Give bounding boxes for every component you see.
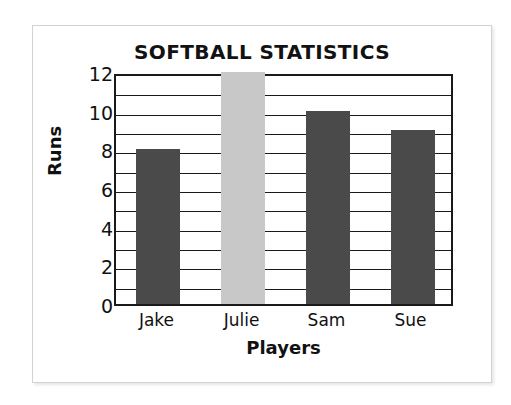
y-tick-label: 6	[79, 181, 113, 200]
figure-frame: SOFTBALL STATISTICS Runs 024681012 JakeJ…	[32, 25, 492, 383]
y-tick-label: 10	[79, 103, 113, 122]
y-tick-label: 12	[79, 65, 113, 84]
x-axis-title: Players	[114, 337, 453, 358]
bar	[221, 72, 265, 304]
y-axis-title: Runs	[44, 126, 65, 176]
y-tick-label: 2	[79, 258, 113, 277]
bars-layer	[116, 76, 451, 304]
bar	[136, 149, 180, 304]
y-tick-label: 8	[79, 142, 113, 161]
x-tick-label: Sue	[368, 310, 453, 330]
bar	[391, 130, 435, 304]
x-tick-label: Julie	[199, 310, 284, 330]
plot-area	[114, 74, 453, 306]
y-axis-tick-labels: 024681012	[79, 74, 113, 306]
bar	[306, 111, 350, 304]
chart-title: SOFTBALL STATISTICS	[33, 40, 491, 64]
x-axis-tick-labels: JakeJulieSamSue	[114, 310, 453, 336]
y-tick-label: 0	[79, 297, 113, 316]
y-tick-label: 4	[79, 219, 113, 238]
x-tick-label: Jake	[114, 310, 199, 330]
x-tick-label: Sam	[284, 310, 369, 330]
